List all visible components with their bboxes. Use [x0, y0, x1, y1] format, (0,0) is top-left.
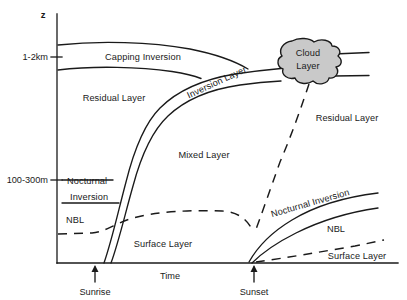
axes-group	[51, 14, 398, 263]
sunrise-arrow-head	[92, 265, 99, 272]
x-axis-label: Time	[160, 271, 180, 281]
cloud-layer-label-line2: Layer	[296, 61, 319, 71]
cloud-right-lower-line	[334, 76, 369, 77]
surface-layer-left-dashed-line	[58, 211, 253, 234]
residual-layer-left-label: Residual Layer	[83, 93, 146, 103]
y-tick-label-100-300m: 100-300m	[7, 175, 49, 185]
sunrise-marker-group	[92, 265, 99, 282]
y-axis-label: z	[41, 9, 46, 20]
capping-inversion-lower-curve	[58, 67, 201, 78]
inversion-layer-label: Inversion Layer	[185, 64, 248, 100]
y-tick-label-1-2km: 1-2km	[22, 52, 48, 62]
nocturnal-inversion-left-label-line1: Nocturnal	[67, 176, 107, 186]
abl-diagram-svg: z 1-2km 100-300m Time Sunrise Sunset Cap…	[0, 0, 407, 300]
nbl-left-label: NBL	[66, 215, 84, 225]
mixed-layer-label: Mixed Layer	[178, 150, 229, 160]
surface-layer-right-label: Surface Layer	[328, 251, 387, 261]
abl-diurnal-evolution-figure: z 1-2km 100-300m Time Sunrise Sunset Cap…	[0, 0, 407, 300]
sunset-marker-group	[251, 265, 258, 282]
nocturnal-inversion-right-label: Nocturnal Inversion	[270, 187, 351, 219]
sunset-label: Sunset	[240, 287, 269, 297]
sunset-arrow-head	[251, 265, 258, 272]
surface-layer-left-label: Surface Layer	[134, 239, 193, 249]
inversion-layer-lower-curve	[111, 81, 281, 263]
sunrise-label: Sunrise	[79, 287, 110, 297]
cloud-layer-label-line1: Cloud	[296, 48, 321, 58]
residual-layer-right-label: Residual Layer	[316, 113, 379, 123]
nbl-right-label: NBL	[327, 224, 345, 234]
nocturnal-inversion-left-label-line2: Inversion	[70, 192, 108, 202]
capping-inversion-label: Capping Inversion	[105, 52, 181, 62]
